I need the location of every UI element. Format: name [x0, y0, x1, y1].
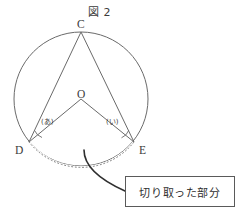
- angle-label-left: (あ): [41, 119, 53, 126]
- figure-title: 図 2: [88, 7, 111, 18]
- point-label-e: E: [139, 145, 146, 157]
- callout-box: 切り取った部分: [125, 176, 235, 207]
- point-label-o: O: [77, 89, 85, 101]
- point-label-c: C: [77, 19, 85, 31]
- callout-label: 切り取った部分: [139, 184, 220, 200]
- point-label-d: D: [15, 145, 23, 157]
- line-O-D: [29, 99, 81, 142]
- angle-label-right: (い): [106, 119, 118, 126]
- figure-container: 図 2 C O D E (あ) (い) 切り取った部分: [0, 0, 241, 221]
